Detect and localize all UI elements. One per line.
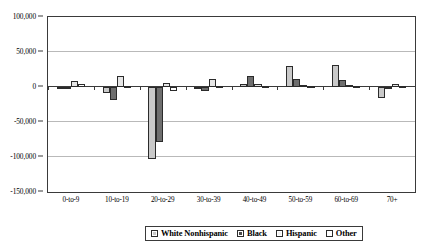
bar (216, 86, 223, 88)
bar (110, 87, 117, 100)
bar (78, 84, 85, 87)
chart-container: 100,00050,0000-50,000-100,000-150,000 0-… (0, 0, 439, 248)
y-axis-tick-label: -150,000 (10, 187, 36, 196)
bar (385, 87, 392, 89)
bar (399, 86, 406, 88)
bar (64, 87, 71, 89)
y-axis-tick-label: 50,000 (16, 47, 36, 56)
bar (286, 66, 293, 87)
bar (57, 87, 64, 89)
bar-group (240, 17, 268, 192)
x-axis-tick-mark (232, 87, 233, 90)
y-axis-tick-mark (38, 191, 43, 192)
legend-swatch-icon (237, 230, 244, 237)
bar-group (57, 17, 85, 192)
bar (163, 83, 170, 87)
bar (378, 87, 385, 98)
legend-label: Other (336, 229, 357, 238)
bar-group (148, 17, 176, 192)
bar (71, 81, 78, 87)
bar (300, 85, 307, 87)
x-axis-tick-label: 40-to-49 (243, 196, 267, 204)
x-axis-tick-mark (48, 87, 49, 90)
legend-label: Hispanic (286, 229, 317, 238)
bar (201, 87, 208, 91)
legend-label: White Nonhispanic (161, 229, 228, 238)
legend-item: White Nonhispanic (151, 229, 228, 238)
x-axis-tick-mark (277, 87, 278, 90)
y-axis-tick-mark (38, 86, 43, 87)
bar (346, 85, 353, 87)
x-axis-tick-mark (140, 87, 141, 90)
y-axis-tick-label: -100,000 (10, 152, 36, 161)
bar-group (286, 17, 314, 192)
x-axis-tick-label: 50-to-59 (289, 196, 313, 204)
x-axis-tick-mark (94, 87, 95, 90)
bar (103, 87, 110, 93)
bar (194, 87, 201, 89)
bar (156, 87, 163, 142)
bar (209, 79, 216, 87)
bar (293, 79, 300, 87)
bar (117, 76, 124, 87)
legend-swatch-icon (276, 230, 283, 237)
bar (240, 84, 247, 87)
y-axis-tick-mark (38, 16, 43, 17)
bar (254, 84, 261, 88)
x-axis-tick-label: 10-to-19 (105, 196, 129, 204)
bar-group (103, 17, 131, 192)
x-axis-tick-label: 0-to-9 (63, 196, 80, 204)
bar (307, 86, 314, 88)
legend-item: Hispanic (276, 229, 317, 238)
bar (392, 84, 399, 87)
y-axis-tick-mark (38, 121, 43, 122)
legend-label: Black (247, 229, 267, 238)
y-axis-tick-label: 0 (32, 82, 36, 91)
y-axis-tick-label: 100,000 (13, 12, 36, 21)
y-axis-tick-mark (38, 51, 43, 52)
x-axis-tick-label: 30-to-39 (197, 196, 221, 204)
bar (170, 87, 177, 91)
chart-legend: White NonhispanicBlackHispanicOther (145, 226, 363, 241)
y-axis: 100,00050,0000-50,000-100,000-150,000 (0, 16, 43, 193)
bar-group (378, 17, 406, 192)
y-axis-tick-label: -50,000 (14, 117, 36, 126)
x-axis-tick-mark (369, 87, 370, 90)
bars-layer (48, 17, 415, 192)
x-axis-tick-mark (323, 87, 324, 90)
y-axis-tick-mark (38, 156, 43, 157)
bar (332, 65, 339, 87)
legend-item: Other (326, 229, 357, 238)
x-axis-tick-label: 60-to-69 (334, 196, 358, 204)
x-axis-tick-label: 20-to-29 (151, 196, 175, 204)
bar-group (194, 17, 222, 192)
legend-item: Black (237, 229, 267, 238)
bar (124, 86, 131, 88)
bar (339, 80, 346, 87)
bar (148, 87, 155, 159)
x-axis-tick-mark (186, 87, 187, 90)
x-axis-tick-label: 70+ (387, 196, 398, 204)
legend-swatch-icon (151, 230, 158, 237)
bar-group (332, 17, 360, 192)
x-axis: 0-to-910-to-1920-to-2930-to-3940-to-4950… (48, 196, 415, 210)
bar (247, 76, 254, 87)
legend-swatch-icon (326, 230, 333, 237)
bar (353, 86, 360, 88)
bar (262, 86, 269, 88)
